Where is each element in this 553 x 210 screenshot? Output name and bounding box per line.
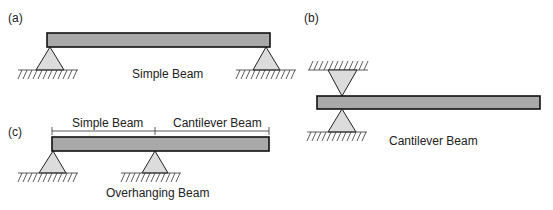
- span-simple-label: Simple Beam: [72, 116, 143, 130]
- span-cantilever-label: Cantilever Beam: [173, 116, 262, 130]
- beam-b: [317, 96, 540, 109]
- panel-a-caption: Simple Beam: [132, 67, 203, 81]
- ground-hatch-icon: [307, 132, 367, 141]
- panel-b-cantilever-beam: (b) Cantilever Beam: [304, 11, 540, 148]
- ceiling-hatch-icon: [308, 61, 368, 70]
- panel-b-tag: (b): [304, 11, 319, 25]
- panel-a-simple-beam: (a) Simple Beam: [8, 11, 296, 81]
- pin-support-left: [36, 47, 64, 70]
- ground-hatch-icon: [18, 70, 78, 79]
- panel-c-caption: Overhanging Beam: [106, 186, 209, 200]
- beam-c: [52, 137, 269, 151]
- beam-diagram: (a) Simple Beam (b) Cantilever Beam (c) …: [0, 0, 553, 210]
- pin-support-left: [39, 151, 66, 173]
- panel-c-tag: (c): [8, 125, 22, 139]
- beam-a: [47, 33, 270, 47]
- fixed-support-top: [328, 70, 357, 96]
- ground-hatch-icon: [236, 70, 296, 79]
- panel-b-caption: Cantilever Beam: [389, 134, 478, 148]
- ground-hatch-icon: [18, 173, 78, 182]
- fixed-support-bottom: [328, 109, 356, 132]
- roller-support-right: [253, 47, 280, 70]
- roller-support-middle: [142, 151, 168, 173]
- ground-hatch-icon: [121, 173, 181, 182]
- panel-c-overhanging-beam: (c) Simple Beam Cantilever Beam Overhang…: [8, 116, 269, 200]
- panel-a-tag: (a): [8, 11, 23, 25]
